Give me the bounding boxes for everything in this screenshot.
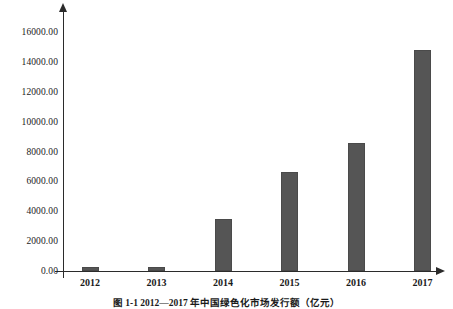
- x-tick-label-2016: 2016: [326, 276, 386, 289]
- x-tick-label-2017: 2017: [393, 276, 453, 289]
- bar-2012: [82, 267, 99, 271]
- bar-2017: [414, 50, 431, 271]
- figure-container: 16000.00 14000.00 12000.00 10000.00 8000…: [0, 0, 453, 309]
- x-tick-label-2015: 2015: [260, 276, 320, 289]
- chart-plot-area: 16000.00 14000.00 12000.00 10000.00 8000…: [0, 0, 453, 285]
- bar-2013: [148, 267, 165, 271]
- bar-series: [0, 0, 453, 285]
- bar-2014: [215, 219, 232, 271]
- bar-2016: [348, 143, 365, 271]
- bar-2015: [281, 172, 298, 271]
- x-tick-label-2012: 2012: [60, 276, 120, 289]
- x-tick-label-2014: 2014: [193, 276, 253, 289]
- figure-caption: 图 1-1 2012—2017 年中国绿色化市场发行额（亿元）: [0, 297, 453, 309]
- x-tick-label-2013: 2013: [127, 276, 187, 289]
- x-axis-tick-labels: 2012 2013 2014 2015 2016 2017: [0, 276, 453, 292]
